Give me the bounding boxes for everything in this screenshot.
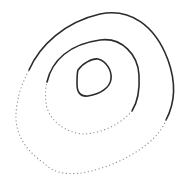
inner-contour-closed-loop: [77, 59, 111, 96]
middle-contour-solid-segment: [47, 40, 139, 111]
outer-contour-dotted-segment: [16, 70, 166, 174]
outer-contour: [16, 13, 173, 174]
middle-contour: [46, 40, 140, 134]
outer-contour-solid-segment: [29, 13, 173, 120]
contour-diagram: [0, 0, 190, 185]
inner-contour: [77, 59, 111, 96]
middle-contour-dotted-segment: [46, 82, 133, 134]
